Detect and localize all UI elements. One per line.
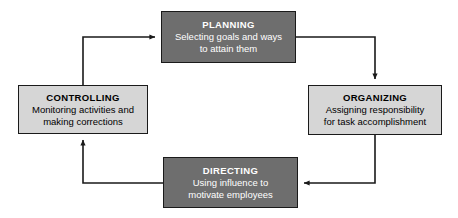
arrow-organizing-to-directing	[304, 135, 375, 183]
node-organizing-title: ORGANIZING	[343, 92, 407, 104]
node-directing-desc-line2: motivate employees	[188, 189, 272, 201]
node-controlling[interactable]: CONTROLLING Monitoring activities and ma…	[18, 85, 148, 134]
node-organizing-desc-line2: for task accomplishment	[324, 116, 426, 128]
node-planning-desc-line2: to attain them	[200, 43, 258, 55]
node-controlling-title: CONTROLLING	[46, 92, 120, 104]
node-organizing[interactable]: ORGANIZING Assigning responsibility for …	[308, 85, 442, 135]
node-directing-title: DIRECTING	[203, 165, 258, 177]
node-directing-desc-line1: Using influence to	[193, 177, 269, 189]
diagram-canvas: PLANNING Selecting goals and ways to att…	[0, 0, 458, 218]
node-organizing-desc-line1: Assigning responsibility	[326, 104, 425, 116]
arrow-controlling-to-planning	[83, 37, 155, 85]
node-planning[interactable]: PLANNING Selecting goals and ways to att…	[161, 11, 296, 63]
node-controlling-desc-line1: Monitoring activities and	[32, 104, 134, 116]
arrow-planning-to-organizing	[296, 37, 375, 79]
arrow-directing-to-controlling	[83, 140, 163, 183]
node-controlling-desc-line2: making corrections	[43, 116, 123, 128]
node-directing[interactable]: DIRECTING Using influence to motivate em…	[163, 157, 298, 208]
node-planning-desc-line1: Selecting goals and ways	[175, 31, 282, 43]
node-planning-title: PLANNING	[202, 19, 254, 31]
